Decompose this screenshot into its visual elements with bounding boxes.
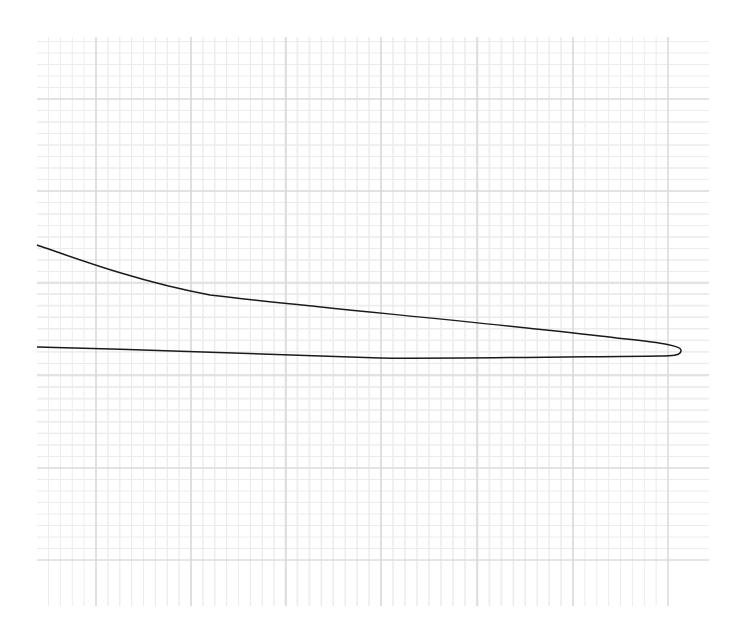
minor-grid [37,37,709,606]
graph-paper-diagram [0,0,747,641]
